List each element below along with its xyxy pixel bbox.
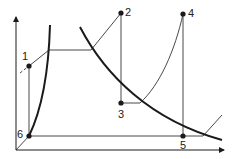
line-to-2 bbox=[91, 13, 121, 50]
point-6 bbox=[26, 133, 31, 138]
point-label-4: 4 bbox=[188, 8, 194, 19]
saturated-liquid-curve bbox=[29, 25, 50, 136]
point-3 bbox=[118, 100, 123, 105]
point-label-6: 6 bbox=[17, 129, 23, 140]
point-label-2: 2 bbox=[125, 7, 131, 18]
point-label-3: 3 bbox=[118, 109, 124, 120]
point-4 bbox=[180, 11, 185, 16]
saturated-vapor-curve bbox=[80, 27, 222, 140]
line-1-to-liquid bbox=[29, 50, 49, 66]
cycle-diagram: 1 2 3 4 5 6 bbox=[0, 0, 235, 159]
point-2 bbox=[118, 10, 123, 15]
line-5-extension bbox=[203, 115, 222, 136]
point-label-1: 1 bbox=[22, 51, 28, 62]
point-5 bbox=[180, 133, 185, 138]
point-label-5: 5 bbox=[180, 140, 186, 151]
diagram-canvas bbox=[0, 0, 235, 159]
line-to-4 bbox=[140, 14, 183, 103]
point-1 bbox=[26, 63, 31, 68]
